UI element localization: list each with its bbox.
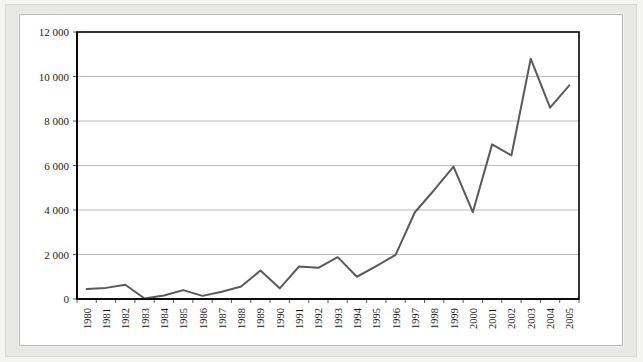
x-tick-label: 1995 [371, 308, 382, 329]
x-tick-label: 1987 [217, 308, 228, 329]
x-tick-label: 1991 [294, 308, 305, 329]
x-tick-label: 2001 [487, 308, 498, 329]
page-root: 02 0004 0006 0008 00010 00012 000 198019… [0, 0, 643, 362]
x-tick-label: 1994 [352, 307, 363, 329]
x-tick-label: 1983 [140, 308, 151, 329]
y-tick-label: 4 000 [44, 204, 69, 216]
y-tick-label: 6 000 [44, 160, 69, 172]
x-tick-label: 1992 [313, 308, 324, 329]
y-tick-label: 8 000 [44, 115, 69, 127]
x-tick-label: 1982 [120, 308, 131, 329]
x-tick-label: 1993 [333, 308, 344, 329]
x-tick-label: 1986 [198, 308, 209, 329]
x-tick-label: 2002 [506, 308, 517, 329]
line-chart: 02 0004 0006 0008 00010 00012 000 198019… [20, 15, 624, 347]
x-tick-label: 2004 [545, 307, 556, 329]
x-tick-label: 1989 [255, 308, 266, 329]
y-axis-tick-labels: 02 0004 0006 0008 00010 00012 000 [39, 26, 70, 305]
x-tick-label: 1981 [101, 308, 112, 329]
chart-panel: 02 0004 0006 0008 00010 00012 000 198019… [19, 14, 623, 346]
x-tick-label: 1988 [236, 308, 247, 329]
y-tick-label: 0 [64, 293, 70, 305]
x-tick-label: 1996 [391, 308, 402, 329]
y-tick-label: 10 000 [39, 71, 70, 83]
x-tick-label: 1990 [275, 308, 286, 329]
x-tick-label: 1999 [449, 308, 460, 329]
x-tick-label: 2005 [564, 308, 575, 329]
y-tick-label: 12 000 [39, 26, 70, 38]
x-tick-label: 1980 [82, 308, 93, 329]
y-tick-label: 2 000 [44, 249, 69, 261]
gridlines [73, 32, 579, 299]
x-tick-label: 1998 [429, 308, 440, 329]
x-tick-label: 2003 [526, 308, 537, 329]
x-tick-label: 1984 [159, 307, 170, 329]
x-tick-label: 1985 [178, 308, 189, 329]
x-axis-tick-labels: 1980198119821983198419851986198719881989… [82, 307, 576, 329]
x-tick-label: 1997 [410, 308, 421, 329]
x-tick-label: 2000 [468, 308, 479, 329]
chart-svg: 02 0004 0006 0008 00010 00012 000 198019… [20, 15, 624, 347]
series-line-0 [87, 59, 570, 299]
